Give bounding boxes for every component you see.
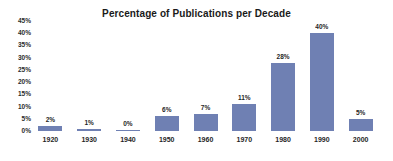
x-tick-label: 1960 bbox=[186, 136, 225, 143]
bar bbox=[271, 63, 295, 131]
plot-area: 2%1%0%6%7%11%28%40%5% bbox=[31, 21, 380, 131]
bar-column: 7% bbox=[186, 21, 225, 131]
bar-column: 28% bbox=[264, 21, 303, 131]
bar bbox=[232, 104, 256, 131]
bar-value-label: 0% bbox=[123, 120, 132, 128]
bar-column: 11% bbox=[225, 21, 264, 131]
y-tick-label: 25% bbox=[18, 66, 31, 74]
bar bbox=[349, 119, 373, 131]
y-tick-label: 5% bbox=[22, 115, 31, 123]
x-tick-label: 2000 bbox=[341, 136, 380, 143]
bar-value-label: 40% bbox=[315, 23, 328, 31]
x-tick-label: 1920 bbox=[31, 136, 70, 143]
bar bbox=[155, 116, 179, 131]
bar bbox=[116, 130, 140, 131]
y-tick-label: 40% bbox=[18, 29, 31, 37]
x-axis: 192019301940195019601970198019902000 bbox=[31, 136, 380, 143]
y-tick-label: 0% bbox=[22, 127, 31, 135]
y-tick-label: 45% bbox=[18, 17, 31, 25]
bar-column: 40% bbox=[302, 21, 341, 131]
bar-value-label: 1% bbox=[84, 119, 93, 127]
y-tick-label: 20% bbox=[18, 78, 31, 86]
bar-value-label: 2% bbox=[46, 116, 55, 124]
bar-value-label: 11% bbox=[238, 94, 251, 102]
x-tick-label: 1990 bbox=[302, 136, 341, 143]
y-tick-label: 10% bbox=[18, 103, 31, 111]
bar-value-label: 6% bbox=[162, 106, 171, 114]
y-tick-label: 35% bbox=[18, 41, 31, 49]
bar bbox=[38, 126, 62, 131]
bar-value-label: 5% bbox=[356, 109, 365, 117]
bar-value-label: 28% bbox=[277, 53, 290, 61]
bar-column: 2% bbox=[31, 21, 70, 131]
x-tick-label: 1950 bbox=[147, 136, 186, 143]
bar bbox=[194, 114, 218, 131]
bar bbox=[77, 129, 101, 131]
x-tick-label: 1940 bbox=[109, 136, 148, 143]
bar bbox=[310, 33, 334, 131]
chart-title: Percentage of Publications per Decade bbox=[0, 8, 393, 19]
x-tick-label: 1980 bbox=[264, 136, 303, 143]
x-tick-label: 1930 bbox=[70, 136, 109, 143]
bar-column: 0% bbox=[109, 21, 148, 131]
y-tick-label: 15% bbox=[18, 90, 31, 98]
bar-value-label: 7% bbox=[201, 104, 210, 112]
y-axis: 0%5%10%15%20%25%30%35%40%45% bbox=[0, 0, 33, 161]
bar-chart: Percentage of Publications per Decade 0%… bbox=[0, 0, 393, 161]
bar-column: 6% bbox=[147, 21, 186, 131]
y-tick-label: 30% bbox=[18, 54, 31, 62]
x-tick-label: 1970 bbox=[225, 136, 264, 143]
bar-column: 1% bbox=[70, 21, 109, 131]
bar-column: 5% bbox=[341, 21, 380, 131]
